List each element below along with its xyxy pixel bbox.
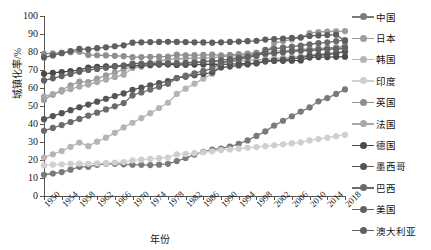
- data-point: [156, 155, 162, 161]
- data-point: [333, 91, 339, 97]
- data-point: [59, 148, 65, 154]
- data-point: [103, 65, 109, 71]
- data-point: [50, 52, 56, 58]
- data-point: [50, 91, 56, 97]
- data-point: [165, 39, 171, 45]
- data-point: [147, 110, 153, 116]
- data-point: [315, 32, 321, 38]
- data-point: [85, 67, 91, 73]
- data-point: [315, 47, 321, 53]
- data-point: [174, 158, 180, 164]
- legend-marker-icon: [352, 32, 374, 44]
- data-point: [306, 137, 312, 143]
- data-point: [165, 100, 171, 106]
- data-point: [103, 106, 109, 112]
- data-point: [147, 60, 153, 66]
- data-point: [183, 39, 189, 45]
- data-point: [165, 154, 171, 160]
- data-point: [41, 94, 47, 100]
- data-point: [41, 116, 47, 122]
- data-point: [342, 45, 348, 51]
- data-point: [156, 54, 162, 60]
- data-point: [280, 49, 286, 55]
- data-point: [147, 87, 153, 93]
- legend-item-label: 法国: [374, 117, 396, 131]
- data-point: [298, 48, 304, 54]
- legend-marker-icon: [352, 53, 374, 65]
- data-point: [94, 52, 100, 58]
- data-point: [85, 101, 91, 107]
- data-point: [174, 91, 180, 97]
- data-point: [41, 154, 47, 160]
- data-point: [236, 146, 242, 152]
- data-point: [289, 48, 295, 54]
- legend-item-美国[interactable]: 美国: [352, 199, 431, 220]
- data-point: [306, 104, 312, 110]
- data-point: [165, 60, 171, 66]
- data-point: [121, 53, 127, 59]
- data-point: [245, 61, 251, 67]
- data-point: [315, 136, 321, 142]
- data-point: [121, 100, 127, 106]
- legend-item-澳大利亚[interactable]: 澳大利亚: [352, 220, 431, 241]
- data-point: [209, 148, 215, 154]
- data-point: [129, 40, 135, 46]
- data-point: [129, 92, 135, 98]
- data-point: [41, 71, 47, 77]
- legend-item-韩国[interactable]: 韩国: [352, 49, 431, 70]
- data-point: [191, 150, 197, 156]
- data-point: [112, 74, 118, 80]
- data-point: [94, 45, 100, 51]
- data-point: [324, 32, 330, 38]
- data-point: [67, 161, 73, 167]
- data-point: [245, 137, 251, 143]
- data-point: [50, 170, 56, 176]
- legend-item-德国[interactable]: 德国: [352, 134, 431, 155]
- data-point: [138, 115, 144, 121]
- data-point: [129, 60, 135, 66]
- legend-item-英国[interactable]: 英国: [352, 92, 431, 113]
- data-point: [85, 52, 91, 58]
- data-point: [138, 39, 144, 45]
- data-point: [245, 145, 251, 151]
- legend-marker-icon: [352, 160, 374, 172]
- data-point: [67, 86, 73, 92]
- legend-item-法国[interactable]: 法国: [352, 113, 431, 134]
- data-point: [41, 128, 47, 134]
- legend-item-墨西哥[interactable]: 墨西哥: [352, 156, 431, 177]
- data-point: [218, 39, 224, 45]
- data-point: [147, 156, 153, 162]
- data-point: [112, 93, 118, 99]
- data-point: [41, 54, 47, 60]
- legend-item-日本[interactable]: 日本: [352, 27, 431, 48]
- data-point: [174, 60, 180, 66]
- data-point: [209, 40, 215, 46]
- data-point: [271, 58, 277, 64]
- data-point: [129, 120, 135, 126]
- data-point: [50, 70, 56, 76]
- legend-item-巴西[interactable]: 巴西: [352, 177, 431, 198]
- data-point: [156, 162, 162, 168]
- legend-marker-icon: [352, 118, 374, 130]
- data-point: [76, 69, 82, 75]
- data-point: [103, 52, 109, 58]
- data-point: [333, 32, 339, 38]
- data-point: [209, 52, 215, 58]
- data-point: [253, 133, 259, 139]
- data-point: [227, 146, 233, 152]
- data-point: [76, 104, 82, 110]
- data-point: [112, 130, 118, 136]
- data-point: [227, 63, 233, 69]
- data-point: [218, 57, 224, 63]
- data-point: [129, 157, 135, 163]
- data-point: [76, 46, 82, 52]
- legend-item-印度[interactable]: 印度: [352, 70, 431, 91]
- data-point: [333, 38, 339, 44]
- data-point: [253, 52, 259, 58]
- data-point: [67, 167, 73, 173]
- data-point: [289, 140, 295, 146]
- data-point: [121, 72, 127, 78]
- data-point: [67, 71, 73, 77]
- legend-item-中国[interactable]: 中国: [352, 6, 431, 27]
- data-point: [103, 76, 109, 82]
